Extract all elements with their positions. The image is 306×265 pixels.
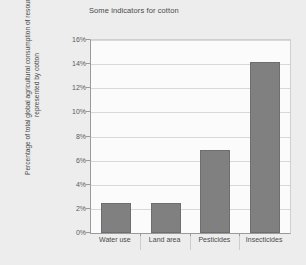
bar-pesticides[interactable] [200, 150, 230, 233]
y-axis-tick-label: 4% [56, 180, 86, 187]
y-axis-tick-label: 12% [56, 84, 86, 91]
bar-insecticides[interactable] [250, 62, 280, 233]
bar-land-area[interactable] [151, 203, 181, 233]
y-axis-tick-label: 2% [56, 204, 86, 211]
plot-area [90, 39, 291, 234]
x-axis-separator [190, 236, 191, 250]
y-axis-tick-label: 6% [56, 156, 86, 163]
y-axis-tick-label: 14% [56, 60, 86, 67]
x-axis-tick-mark [140, 233, 141, 236]
y-axis-tick-label: 10% [56, 108, 86, 115]
bar-slot [91, 40, 141, 233]
y-axis-tick-label: 0% [56, 229, 86, 236]
chart-title: Some indicators for cotton [89, 6, 179, 15]
y-axis-tick-mark [86, 111, 90, 112]
bar-water-use[interactable] [101, 203, 131, 233]
x-axis-separator [239, 236, 240, 250]
bar-series [91, 40, 290, 233]
x-axis-tick-mark [190, 233, 191, 236]
y-axis-tick-mark [86, 39, 90, 40]
y-axis-tick-labels: 0%2%4%6%8%10%12%14%16% [52, 39, 86, 232]
x-axis-separator [140, 236, 141, 250]
bar-chart: Some indicators for cotton Percentage of… [0, 0, 306, 265]
y-axis-tick-mark [86, 232, 90, 233]
y-axis-tick-mark [86, 87, 90, 88]
x-axis-tick-label: Pesticides [190, 236, 240, 243]
y-axis-tick-mark [86, 136, 90, 137]
y-axis-title: Percentage of total global agricultural … [23, 0, 41, 175]
x-axis-tick-mark [239, 233, 240, 236]
y-axis-tick-label: 16% [56, 36, 86, 43]
y-axis-title-line-2: represented by cotton [32, 0, 41, 175]
y-axis-tick-mark [86, 208, 90, 209]
y-axis-tick-mark [86, 63, 90, 64]
bar-slot [141, 40, 191, 233]
y-axis-tick-label: 8% [56, 132, 86, 139]
x-axis-tick-label: Insecticides [239, 236, 289, 243]
bar-slot [191, 40, 241, 233]
y-axis-tick-mark [86, 184, 90, 185]
y-axis-tick-mark [86, 160, 90, 161]
x-axis-tick-label: Land area [140, 236, 190, 243]
x-axis-tick-label: Water use [90, 236, 140, 243]
bar-slot [240, 40, 290, 233]
x-axis-tick-labels: Water useLand areaPesticidesInsecticides [90, 236, 291, 252]
y-axis-title-line-1: Percentage of total global agricultural … [23, 0, 32, 175]
